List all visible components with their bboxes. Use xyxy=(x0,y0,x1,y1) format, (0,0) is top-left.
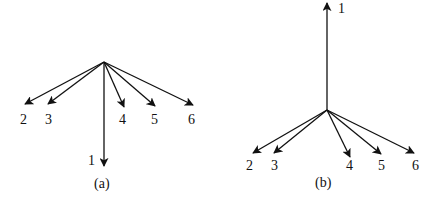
label-b-5: 5 xyxy=(378,158,385,173)
vector-b-3 xyxy=(274,110,327,153)
vector-a-6 xyxy=(104,62,193,105)
label-a-6: 6 xyxy=(188,112,195,127)
vector-a-4 xyxy=(104,62,124,107)
label-a-1: 1 xyxy=(88,153,95,168)
panel-b: 1 2 3 4 5 6 (b) xyxy=(246,1,419,191)
label-b-6: 6 xyxy=(412,158,419,173)
caption-a: (a) xyxy=(94,176,110,192)
caption-b: (b) xyxy=(315,175,332,191)
vector-diagram: 1 2 3 4 5 6 (a) 1 2 3 4 5 6 (b) xyxy=(0,0,439,203)
label-a-4: 4 xyxy=(119,112,126,127)
label-a-2: 2 xyxy=(20,112,27,127)
vector-a-5 xyxy=(104,62,155,106)
vector-b-6 xyxy=(327,110,414,153)
panel-a: 1 2 3 4 5 6 (a) xyxy=(20,62,195,192)
vector-a-3 xyxy=(48,62,104,104)
label-b-3: 3 xyxy=(271,158,278,173)
vector-b-4 xyxy=(327,110,350,157)
vector-b-2 xyxy=(253,110,327,153)
label-b-2: 2 xyxy=(246,158,253,173)
label-a-5: 5 xyxy=(151,112,158,127)
label-a-3: 3 xyxy=(45,112,52,127)
vector-a-2 xyxy=(25,62,104,104)
label-b-4: 4 xyxy=(346,158,353,173)
label-b-1: 1 xyxy=(338,1,345,16)
